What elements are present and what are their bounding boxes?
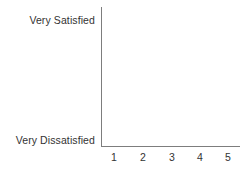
x-axis-tick-1: 1	[105, 151, 123, 163]
plot-area	[102, 7, 240, 146]
x-axis-tick-2: 2	[134, 151, 152, 163]
x-axis-tick-labels: 1 2 3 4 5	[101, 151, 240, 167]
x-axis-tick-4: 4	[191, 151, 209, 163]
chart-figure: Very Satisfied Very Dissatisfied 1 2 3 4…	[0, 0, 244, 175]
x-axis-line	[101, 146, 240, 147]
y-axis-label-bottom: Very Dissatisfied	[0, 134, 95, 146]
x-axis-tick-5: 5	[219, 151, 237, 163]
y-axis-label-top: Very Satisfied	[0, 14, 95, 26]
x-axis-tick-3: 3	[163, 151, 181, 163]
